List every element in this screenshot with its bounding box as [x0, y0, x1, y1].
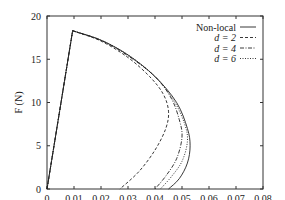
x-tick-label: 0.04 [146, 193, 164, 200]
y-tick-label: 10 [31, 97, 41, 108]
line-chart: 00.010.020.030.040.050.060.070.080510152… [0, 0, 285, 200]
y-tick-label: 20 [31, 11, 41, 22]
legend-label: d = 6 [214, 53, 236, 64]
y-tick-label: 5 [36, 140, 41, 151]
x-tick-label: 0.06 [200, 193, 218, 200]
x-tick-label: 0.05 [173, 193, 191, 200]
chart-container: 00.010.020.030.040.050.060.070.080510152… [0, 0, 285, 200]
series-line-1 [47, 31, 169, 189]
x-tick-label: 0.01 [65, 193, 83, 200]
series-line-2 [47, 31, 182, 189]
x-tick-label: 0.08 [254, 193, 272, 200]
x-tick-label: 0.03 [119, 193, 137, 200]
x-tick-label: 0.07 [227, 193, 245, 200]
x-tick-label: 0 [45, 193, 50, 200]
x-tick-label: 0.02 [92, 193, 110, 200]
legend-label: d = 2 [214, 32, 236, 43]
y-tick-label: 15 [31, 54, 41, 65]
y-axis-label: F (N) [13, 92, 25, 114]
series-line-3 [47, 31, 188, 189]
y-tick-label: 0 [36, 184, 41, 195]
legend-label: d = 4 [214, 43, 236, 54]
legend-label: Non-local [196, 22, 236, 33]
